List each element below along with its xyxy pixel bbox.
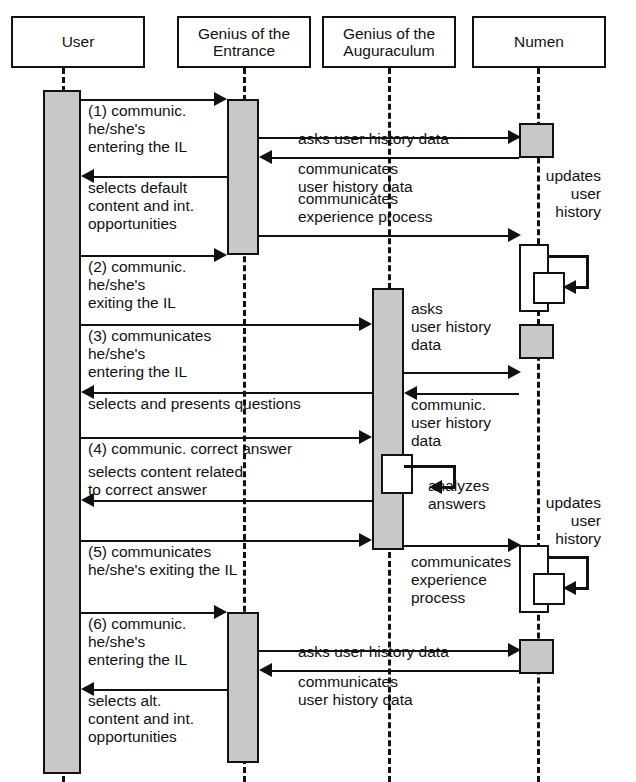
message-line-1[interactable]	[81, 99, 219, 101]
message-label-17: updates user history	[481, 494, 601, 548]
message-line-4[interactable]	[87, 176, 227, 178]
message-line-21[interactable]	[87, 689, 227, 691]
lifeline-label-user: User	[62, 33, 95, 50]
arrowhead-3	[259, 150, 272, 164]
message-label-1: (1) communic. he/she's entering the IL	[88, 102, 218, 156]
lifeline-label-entrance: Genius of the Entrance	[198, 25, 290, 60]
message-line-3[interactable]	[265, 157, 519, 159]
selfcall-3-top	[549, 556, 589, 559]
message-label-16: communicates experience process	[411, 553, 521, 607]
message-label-10: communic. user history data	[411, 396, 531, 450]
message-label-12: (4) communic. correct answer	[88, 440, 378, 458]
message-label-14: selects content related to correct answe…	[88, 463, 288, 499]
selfcall-1-top	[549, 255, 589, 258]
message-label-4: selects default content and int. opportu…	[88, 179, 223, 233]
message-line-10[interactable]	[410, 393, 519, 395]
lifeline-header-numen[interactable]: Numen	[472, 16, 606, 68]
message-line-20[interactable]	[265, 670, 519, 672]
message-label-8: (3) communicates he/she's entering the I…	[88, 327, 263, 381]
message-label-19: asks user history data	[298, 643, 528, 661]
lifeline-label-auguraculum: Genius of the Auguraculum	[343, 25, 435, 60]
sequence-diagram-canvas: User Genius of the Entrance Genius of th…	[0, 0, 636, 782]
arrowhead-5	[508, 228, 521, 242]
arrowhead-selfcall-1	[563, 280, 576, 294]
selfcall-2-top	[404, 465, 456, 468]
message-line-12[interactable]	[81, 437, 364, 439]
arrowhead-9	[508, 365, 521, 379]
arrowhead-selfcall-3	[563, 581, 576, 595]
message-line-14[interactable]	[87, 500, 372, 502]
activation-numen-update-2-nested[interactable]	[533, 573, 565, 605]
message-label-6: updates user history	[481, 167, 601, 221]
activation-numen-update-1-nested[interactable]	[533, 272, 565, 304]
lifeline-header-user[interactable]: User	[11, 16, 145, 68]
message-line-15[interactable]	[81, 540, 364, 542]
selfcall-1-right	[586, 255, 589, 288]
message-line-8[interactable]	[81, 324, 364, 326]
message-line-11[interactable]	[87, 392, 372, 394]
arrowhead-20	[259, 663, 272, 677]
arrowhead-8	[359, 317, 372, 331]
activation-auguraculum-analyze[interactable]	[381, 454, 413, 494]
message-label-21: selects alt. content and int. opportunit…	[88, 692, 223, 746]
lifeline-header-entrance[interactable]: Genius of the Entrance	[177, 16, 311, 68]
message-label-15: (5) communicates he/she's exiting the IL	[88, 543, 318, 579]
activation-user[interactable]	[43, 90, 81, 774]
lifeline-label-numen: Numen	[514, 33, 564, 50]
message-label-20: communicates user history data	[298, 673, 528, 709]
message-line-9[interactable]	[404, 372, 514, 374]
message-label-7: (2) communic. he/she's exiting the IL	[88, 258, 223, 312]
selfcall-3-right	[586, 556, 589, 589]
message-label-11: selects and presents questions	[88, 395, 378, 413]
lifeline-header-auguraculum[interactable]: Genius of the Auguraculum	[322, 16, 456, 68]
message-line-7[interactable]	[81, 255, 219, 257]
message-label-18: (6) communic. he/she's entering the IL	[88, 615, 223, 669]
activation-auguraculum[interactable]	[372, 288, 404, 550]
message-label-2: asks user history data	[298, 130, 528, 148]
message-line-5[interactable]	[259, 235, 513, 237]
arrowhead-15	[359, 533, 372, 547]
activation-entrance-1[interactable]	[227, 99, 259, 255]
message-label-9: asks user history data	[411, 300, 526, 354]
activation-entrance-2[interactable]	[227, 612, 259, 763]
message-line-18[interactable]	[81, 612, 219, 614]
